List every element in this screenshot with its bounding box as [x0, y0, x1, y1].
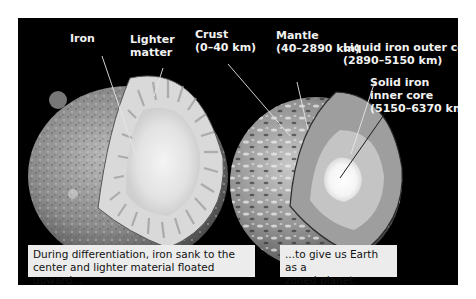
label-outer-core-name: Liquid iron outer core	[343, 41, 458, 54]
label-lighter-matter: Lighter matter	[130, 33, 175, 59]
label-outer-core: Liquid iron outer core (2890–5150 km)	[343, 41, 458, 67]
label-inner-core: Solid iron inner core (5150–6370 km)	[370, 76, 458, 115]
label-inner-core-line1: Solid iron	[370, 76, 458, 89]
caption-zoned-planet-line2: zoned planet.	[285, 274, 392, 285]
label-crust-range: (0–40 km)	[195, 41, 256, 54]
diagram-frame: Iron Lighter matter Crust (0–40 km) Mant…	[18, 18, 458, 285]
caption-differentiation-line1: During differentiation, iron sank to the	[33, 248, 250, 261]
proto-planet	[28, 56, 228, 266]
label-lighter-matter-line2: matter	[130, 46, 175, 59]
label-iron: Iron	[70, 32, 95, 45]
label-lighter-matter-line1: Lighter	[130, 33, 175, 46]
label-inner-core-range: (5150–6370 km)	[370, 102, 458, 115]
caption-zoned-planet-line1: ...to give us Earth as a	[285, 248, 392, 274]
label-outer-core-range: (2890–5150 km)	[343, 54, 458, 67]
label-crust-name: Crust	[195, 28, 256, 41]
caption-zoned-planet: ...to give us Earth as a zoned planet.	[280, 245, 397, 277]
label-inner-core-line2: inner core	[370, 89, 458, 102]
caption-differentiation-line2: center and lighter material floated upwa…	[33, 261, 250, 285]
caption-differentiation: During differentiation, iron sank to the…	[28, 245, 255, 277]
label-crust: Crust (0–40 km)	[195, 28, 256, 54]
